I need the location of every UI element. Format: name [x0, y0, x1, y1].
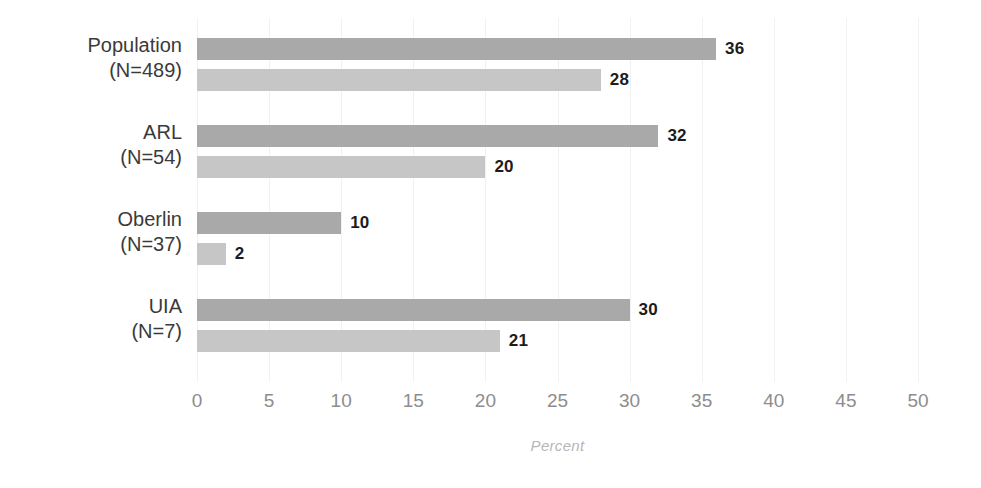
category-label-oberlin: Oberlin(N=37)	[2, 207, 182, 257]
category-label-name: Population	[2, 33, 182, 58]
category-axis: Population(N=489)ARL(N=54)Oberlin(N=37)U…	[0, 0, 182, 382]
plot-area: 362832201023021	[197, 0, 918, 382]
bar-group-population: 3628	[197, 38, 918, 91]
category-label-count: (N=489)	[2, 58, 182, 83]
category-label-count: (N=54)	[2, 145, 182, 170]
bar-track: 32	[197, 125, 918, 147]
bar-oberlin-series-1	[197, 212, 341, 234]
bar-track: 21	[197, 330, 918, 352]
bar-track: 2	[197, 243, 918, 265]
category-label-arl: ARL(N=54)	[2, 120, 182, 170]
bar-value-label: 32	[667, 126, 686, 146]
category-label-name: ARL	[2, 120, 182, 145]
bar-uia-series-2	[197, 330, 500, 352]
x-tick-label-50: 50	[907, 390, 928, 412]
bar-population-series-1	[197, 38, 716, 60]
x-axis-title: Percent	[197, 437, 918, 454]
bar-value-label: 28	[610, 70, 629, 90]
gridline-50	[918, 18, 919, 382]
category-label-name: UIA	[2, 294, 182, 319]
bar-population-series-2	[197, 69, 601, 91]
x-tick-label-40: 40	[763, 390, 784, 412]
category-label-uia: UIA(N=7)	[2, 294, 182, 344]
bar-value-label: 20	[494, 157, 513, 177]
x-tick-label-25: 25	[547, 390, 568, 412]
bar-value-label: 2	[235, 244, 245, 264]
bar-track: 30	[197, 299, 918, 321]
x-tick-label-35: 35	[691, 390, 712, 412]
x-tick-label-0: 0	[192, 390, 203, 412]
bar-oberlin-series-2	[197, 243, 226, 265]
bar-track: 10	[197, 212, 918, 234]
bar-uia-series-1	[197, 299, 630, 321]
x-tick-label-10: 10	[331, 390, 352, 412]
bar-arl-series-2	[197, 156, 485, 178]
x-axis: 05101520253035404550	[197, 390, 918, 420]
category-label-population: Population(N=489)	[2, 33, 182, 83]
bar-value-label: 21	[509, 331, 528, 351]
bar-track: 20	[197, 156, 918, 178]
bar-group-oberlin: 102	[197, 212, 918, 265]
x-tick-label-15: 15	[403, 390, 424, 412]
bar-value-label: 10	[350, 213, 369, 233]
bar-value-label: 30	[639, 300, 658, 320]
bar-chart: Population(N=489)ARL(N=54)Oberlin(N=37)U…	[0, 0, 981, 488]
x-tick-label-45: 45	[835, 390, 856, 412]
category-label-count: (N=7)	[2, 319, 182, 344]
x-tick-label-30: 30	[619, 390, 640, 412]
bar-group-arl: 3220	[197, 125, 918, 178]
bar-track: 36	[197, 38, 918, 60]
x-tick-label-20: 20	[475, 390, 496, 412]
category-label-name: Oberlin	[2, 207, 182, 232]
x-tick-label-5: 5	[264, 390, 275, 412]
bar-track: 28	[197, 69, 918, 91]
bar-arl-series-1	[197, 125, 658, 147]
bar-group-uia: 3021	[197, 299, 918, 352]
category-label-count: (N=37)	[2, 232, 182, 257]
bar-value-label: 36	[725, 39, 744, 59]
